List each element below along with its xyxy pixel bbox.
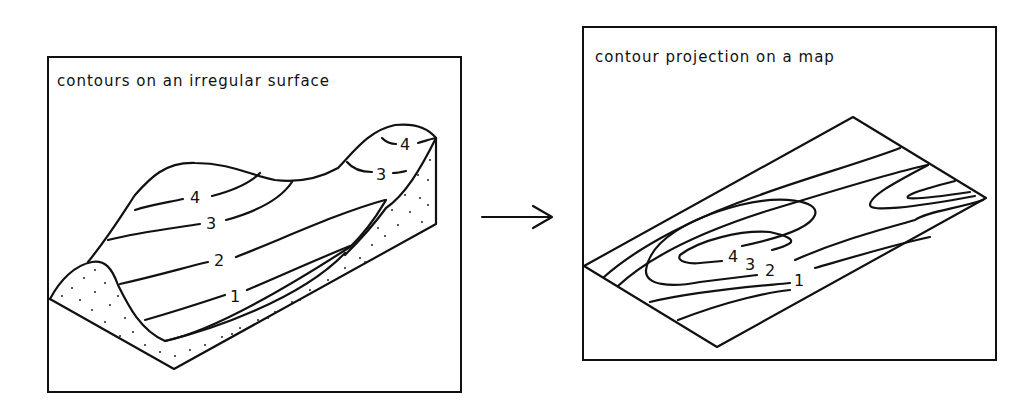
- map-label-1: 1: [794, 271, 804, 290]
- surface-label-1: 1: [230, 287, 240, 306]
- map-contour-lines: [604, 148, 983, 320]
- surface-label-3: 3: [206, 214, 216, 233]
- surface-label-4: 4: [190, 188, 200, 207]
- map-label-2: 2: [765, 261, 775, 280]
- surface-block-drawing: [50, 125, 436, 369]
- ridge-label-3: 3: [376, 165, 386, 184]
- diagram-artwork: 4 3 2 1 4 3 4 3 2 1: [0, 0, 1034, 405]
- ridge-label-4: 4: [400, 135, 410, 154]
- map-contour-labels: 4 3 2 1: [728, 247, 804, 290]
- surface-label-2: 2: [214, 251, 224, 270]
- projection-arrow-icon: [482, 206, 552, 228]
- surface-contour-lines: [108, 138, 436, 320]
- map-label-3: 3: [745, 255, 755, 274]
- map-plane-drawing: [584, 117, 986, 347]
- map-label-4: 4: [728, 247, 738, 266]
